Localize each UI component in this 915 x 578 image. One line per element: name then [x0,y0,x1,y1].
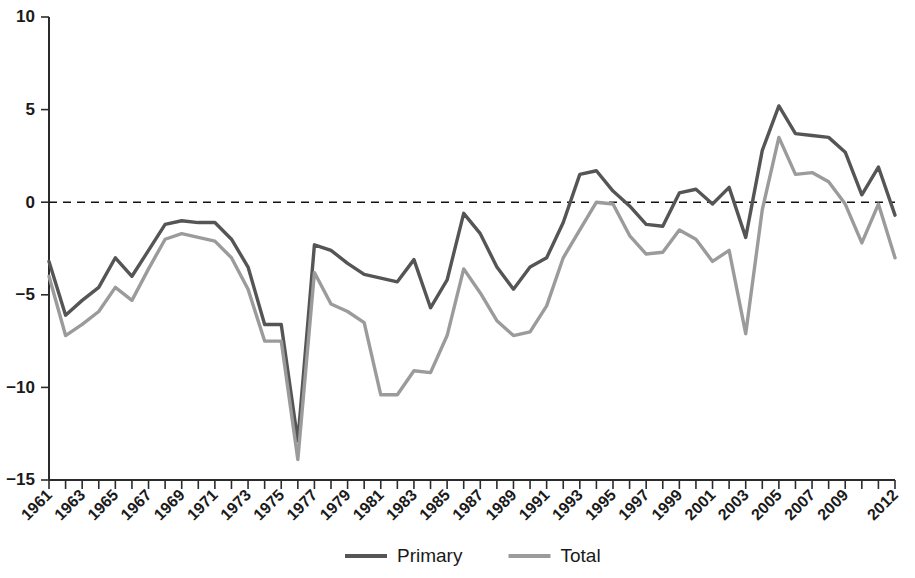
y-tick-label: 0 [26,193,35,212]
y-tick-label: −5 [16,285,35,304]
x-tick-label: 1973 [217,486,254,523]
x-tick-label: 1967 [117,486,154,523]
x-tick-label: 2001 [681,486,718,523]
y-tick-label: 10 [16,7,35,26]
x-axis: 1961196319651967196919711973197519771979… [18,480,901,523]
x-tick-label: 1975 [250,486,287,523]
x-tick-label: 2012 [864,486,901,523]
series-line-total [49,137,895,459]
x-tick-label: 1971 [184,486,221,523]
x-tick-label: 1963 [51,486,88,523]
x-tick-label: 1965 [84,486,121,523]
x-tick-label: 1979 [317,486,354,523]
x-tick-label: 1977 [283,486,320,523]
chart-page: 1050−5−10−15 196119631965196719691971197… [0,0,915,578]
x-tick-label: 1991 [516,486,553,523]
x-tick-label: 1983 [383,486,420,523]
line-chart: 1050−5−10−15 196119631965196719691971197… [0,0,915,578]
x-tick-label: 1989 [482,486,519,523]
legend-label-primary: Primary [397,545,463,566]
chart-legend: PrimaryTotal [345,545,601,566]
x-tick-label: 1993 [549,486,586,523]
x-tick-label: 1981 [350,486,387,523]
x-tick-label: 2007 [781,486,818,523]
x-tick-label: 1985 [416,486,453,523]
series-line-primary [49,106,895,441]
x-tick-label: 1987 [449,486,486,523]
x-tick-label: 1969 [151,486,188,523]
y-tick-label: −10 [6,378,35,397]
x-tick-label: 2005 [748,486,785,523]
data-series-group [49,106,895,460]
y-tick-label: 5 [26,100,35,119]
x-tick-label: 1997 [615,486,652,523]
x-tick-label: 1995 [582,486,619,523]
x-tick-label: 1999 [648,486,685,523]
legend-label-total: Total [561,545,601,566]
y-axis: 1050−5−10−15 [6,7,49,489]
y-tick-label: −15 [6,470,35,489]
x-tick-label: 2009 [814,486,851,523]
x-tick-label: 1961 [18,486,55,523]
x-tick-label: 2003 [715,486,752,523]
